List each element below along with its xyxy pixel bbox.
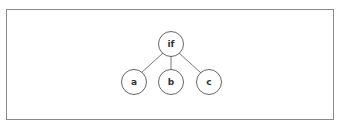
edge-if-a: [141, 53, 163, 73]
node-c-label: c: [206, 77, 211, 87]
node-c: c: [197, 70, 222, 95]
tree-diagram: if a b c: [0, 0, 343, 128]
edge-if-c: [179, 53, 201, 73]
node-b-label: b: [168, 77, 175, 87]
node-a: a: [122, 70, 147, 95]
node-b: b: [159, 70, 184, 95]
node-a-label: a: [131, 77, 137, 87]
node-root: if: [159, 32, 184, 57]
node-root-label: if: [167, 39, 174, 49]
